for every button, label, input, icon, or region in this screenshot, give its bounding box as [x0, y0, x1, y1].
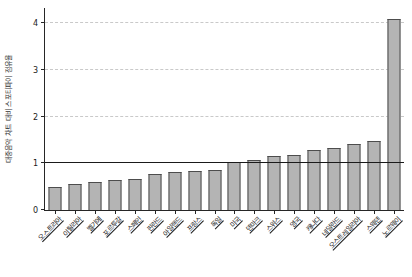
bar-오스트리아: [48, 187, 61, 210]
bar-스웨덴: [368, 141, 381, 210]
bar-핀란드: [148, 174, 161, 210]
gridline-y4: [45, 22, 404, 23]
bar-벨기에: [88, 182, 101, 210]
x-axis-tick: [294, 210, 295, 214]
reference-line-y1: [45, 162, 404, 163]
bar-미국: [228, 162, 241, 210]
x-axis-tick: [394, 210, 395, 214]
x-axis-tick: [354, 210, 355, 214]
x-axis-tick: [55, 210, 56, 214]
bar-덴마크: [248, 160, 261, 210]
gridline-y3: [45, 69, 404, 70]
x-axis-tick: [115, 210, 116, 214]
x-axis-tick: [155, 210, 156, 214]
bar-노르웨이: [388, 19, 401, 210]
y-axis-tick: [41, 69, 45, 70]
x-axis-tick: [274, 210, 275, 214]
x-axis-tick: [175, 210, 176, 214]
x-tick-label: 스페인: [126, 216, 144, 234]
x-axis-tick: [95, 210, 96, 214]
x-tick-label: 독일: [210, 216, 223, 229]
y-tick-label: 0: [33, 207, 38, 215]
x-tick-label: 영국: [290, 216, 303, 229]
x-tick-label: 이탈리아: [62, 216, 84, 238]
y-axis-tick: [41, 116, 45, 117]
x-axis-tick: [234, 210, 235, 214]
x-tick-label: 오스트리아: [38, 216, 64, 242]
bar-프랑스: [188, 171, 201, 210]
x-axis-tick: [374, 210, 375, 214]
bar-독일: [208, 170, 221, 210]
bar-네덜란드: [328, 148, 341, 210]
y-axis-tick: [41, 22, 45, 23]
gridline-y2: [45, 116, 404, 117]
x-tick-label: 스위스: [266, 216, 284, 234]
x-axis-tick: [254, 210, 255, 214]
x-tick-label: 노르웨이: [381, 216, 403, 238]
x-tick-label: 프랑스: [186, 216, 204, 234]
x-axis-tick: [215, 210, 216, 214]
y-tick-label: 2: [33, 114, 38, 122]
y-axis-title: 대중음악 차트 대비 스포티파이 점유율: [6, 55, 13, 164]
x-tick-label: 미국: [230, 216, 243, 229]
x-axis-tick: [314, 210, 315, 214]
x-axis-tick: [135, 210, 136, 214]
bar-chart-figure: 대중음악 차트 대비 스포티파이 점유율 01234오스트리아이탈리아벨기에포르…: [0, 0, 412, 277]
x-tick-label: 아일랜드: [162, 216, 184, 238]
x-tick-label: 포르투갈: [102, 216, 124, 238]
bar-오스트레일리아: [348, 144, 361, 210]
bar-이탈리아: [68, 184, 81, 210]
bar-캐나다: [308, 150, 321, 210]
bar-아일랜드: [168, 172, 181, 210]
y-axis-tick: [41, 209, 45, 210]
x-axis-tick: [75, 210, 76, 214]
y-tick-label: 3: [33, 67, 38, 75]
bar-포르투갈: [108, 180, 121, 210]
x-axis-tick: [334, 210, 335, 214]
x-tick-label: 덴마크: [246, 216, 264, 234]
x-axis-tick: [195, 210, 196, 214]
bar-스페인: [128, 179, 141, 210]
y-tick-label: 1: [33, 160, 38, 168]
y-tick-label: 4: [33, 20, 38, 28]
plot-area: 01234오스트리아이탈리아벨기에포르투갈스페인핀란드아일랜드프랑스독일미국덴마…: [44, 8, 404, 211]
bar-스위스: [268, 156, 281, 210]
